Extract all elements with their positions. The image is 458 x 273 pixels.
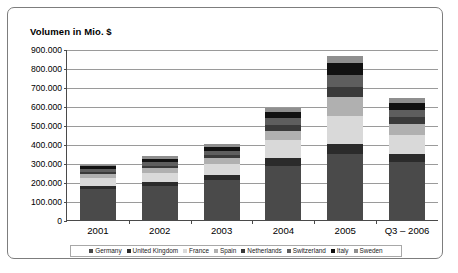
x-axis-tick-mark [252,220,253,224]
legend-swatch-icon [89,249,93,253]
bar-segment[interactable] [327,56,363,64]
stacked-bar[interactable] [80,165,116,220]
bar-segment[interactable] [265,140,301,158]
y-axis-tick-label: 700.000 [31,84,62,93]
x-axis-tick-label: 2005 [335,226,356,236]
y-axis-tick-label: 900.000 [31,46,62,55]
legend-item[interactable]: Spain [214,248,236,254]
stacked-bar[interactable] [327,56,363,220]
category-slot: 2003 [191,50,253,220]
legend-label: Germany [95,248,121,254]
category-slot: 2005 [314,50,376,220]
bar-segment[interactable] [265,166,301,220]
category-slot: 2002 [129,50,191,220]
bar-segment[interactable] [327,87,363,97]
x-axis-tick-label: 2002 [149,226,170,236]
bar-segment[interactable] [389,154,425,162]
y-axis-tick-mark [64,221,67,222]
bar-segment[interactable] [327,75,363,87]
y-axis-tick-label: 500.000 [31,122,62,131]
legend-item[interactable]: Netherlands [241,248,281,254]
legend-item[interactable]: Switzerland [287,248,326,254]
category-slot: 2004 [252,50,314,220]
stacked-bar[interactable] [204,144,240,220]
bar-segment[interactable] [389,103,425,110]
bar-segment[interactable] [204,180,240,220]
bar-segment[interactable] [204,164,240,175]
bar-series-group: 20012002200320042005Q3 – 2006 [67,50,438,220]
legend-swatch-icon [354,249,358,253]
legend-item[interactable]: France [183,248,209,254]
bar-segment[interactable] [327,97,363,115]
y-axis-tick-label: 600.000 [31,103,62,112]
x-axis-tick-label: Q3 – 2006 [385,226,430,236]
bar-segment[interactable] [142,173,178,182]
y-axis-tick-label: 400.000 [31,141,62,150]
bar-segment[interactable] [265,131,301,141]
legend-swatch-icon [287,249,291,253]
x-axis-tick-label: 2004 [273,226,294,236]
bar-segment[interactable] [389,124,425,134]
bar-segment[interactable] [327,154,363,220]
y-axis-tick-label: 300.000 [31,160,62,169]
chart-title: Volumen in Mio. $ [30,26,112,37]
x-axis-tick-mark [129,220,130,224]
bar-segment[interactable] [265,118,301,125]
bar-segment[interactable] [327,116,363,145]
chart-frame: Volumen in Mio. $ 900.000800.000700.0006… [7,7,443,259]
bar-segment[interactable] [80,189,116,220]
chart-legend: GermanyUnited KingdomFranceSpainNetherla… [70,245,402,257]
y-axis-tick-label: 800.000 [31,65,62,74]
legend-swatch-icon [331,249,335,253]
y-axis-tick-label: 100.000 [31,198,62,207]
bar-segment[interactable] [389,135,425,155]
y-axis-tick-label: 0 [57,217,62,226]
legend-label: Switzerland [293,248,326,254]
legend-label: Sweden [360,248,383,254]
x-axis-tick-mark [191,220,192,224]
legend-item[interactable]: Germany [89,248,121,254]
x-axis-tick-mark [376,220,377,224]
bar-segment[interactable] [389,110,425,118]
legend-swatch-icon [241,249,245,253]
legend-label: Netherlands [247,248,281,254]
x-axis-tick-label: 2001 [87,226,108,236]
legend-label: France [189,248,209,254]
stacked-bar[interactable] [142,156,178,220]
legend-item[interactable]: Sweden [354,248,383,254]
legend-swatch-icon [127,249,131,253]
bar-segment[interactable] [327,144,363,154]
legend-item[interactable]: Italy [331,248,349,254]
bar-segment[interactable] [327,63,363,74]
legend-swatch-icon [183,249,187,253]
legend-item[interactable]: United Kingdom [127,248,178,254]
legend-swatch-icon [214,249,218,253]
legend-label: Spain [220,248,236,254]
bar-segment[interactable] [389,162,425,220]
stacked-bar[interactable] [389,98,425,220]
y-axis-tick-label: 200.000 [31,179,62,188]
x-axis-tick-mark [314,220,315,224]
legend-label: Italy [337,248,349,254]
bar-segment[interactable] [80,178,116,186]
plot-area: 900.000800.000700.000600.000500.000400.0… [66,50,438,221]
chart-page: Volumen in Mio. $ 900.000800.000700.0006… [0,0,458,273]
stacked-bar[interactable] [265,108,301,220]
legend-label: United Kingdom [133,248,178,254]
bar-segment[interactable] [142,186,178,220]
category-slot: Q3 – 2006 [376,50,438,220]
x-axis-tick-label: 2003 [211,226,232,236]
bar-segment[interactable] [265,158,301,166]
category-slot: 2001 [67,50,129,220]
bar-segment[interactable] [389,117,425,124]
